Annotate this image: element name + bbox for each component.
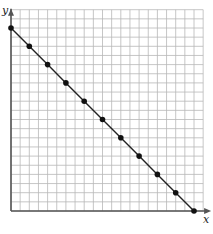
data-point-marker xyxy=(191,208,197,214)
data-point-marker xyxy=(45,62,51,68)
grid-lines xyxy=(11,10,203,211)
data-point-marker xyxy=(173,190,179,196)
data-point-marker xyxy=(155,172,161,178)
chart-plot xyxy=(0,0,213,234)
x-axis-label: x xyxy=(203,214,209,225)
data-point-marker xyxy=(63,80,69,86)
data-point-marker xyxy=(100,117,106,123)
data-point-marker xyxy=(118,135,124,141)
data-point-marker xyxy=(8,25,14,31)
data-point-marker xyxy=(27,44,33,50)
y-axis-label: y xyxy=(2,5,8,16)
data-point-marker xyxy=(136,153,142,159)
data-point-marker xyxy=(81,98,87,104)
